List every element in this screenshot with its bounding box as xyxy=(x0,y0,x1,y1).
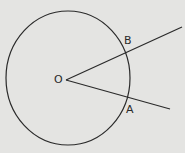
label-center-o: O xyxy=(54,73,63,86)
label-point-a: A xyxy=(126,103,134,116)
ray-oa xyxy=(66,80,170,109)
geometry-figure: O B A xyxy=(0,0,185,153)
circle xyxy=(6,11,130,145)
label-point-b: B xyxy=(124,34,132,47)
circle-diagram: O B A xyxy=(0,0,185,153)
